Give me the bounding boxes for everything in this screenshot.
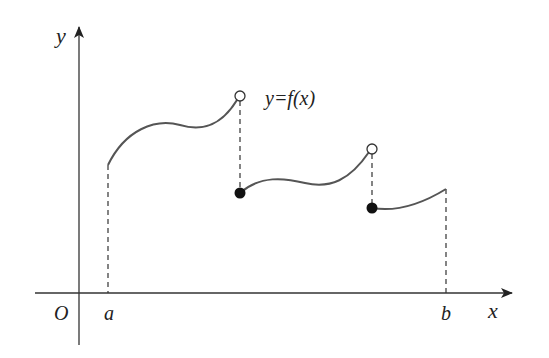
curve-segment-1 xyxy=(108,100,237,165)
filled-circle-1 xyxy=(235,188,246,199)
function-diagram: y x O a b y=f(x) xyxy=(0,0,549,358)
curve-segment-2 xyxy=(240,152,369,193)
a-label: a xyxy=(104,302,114,324)
origin-label: O xyxy=(54,302,68,324)
filled-circle-2 xyxy=(367,203,378,214)
function-label: y=f(x) xyxy=(263,87,315,110)
open-circle-1 xyxy=(235,91,245,101)
b-label: b xyxy=(441,302,451,324)
x-axis-label: x xyxy=(487,298,498,323)
y-axis-label: y xyxy=(54,23,66,48)
open-circle-2 xyxy=(367,144,377,154)
curve-segment-3 xyxy=(372,189,446,209)
